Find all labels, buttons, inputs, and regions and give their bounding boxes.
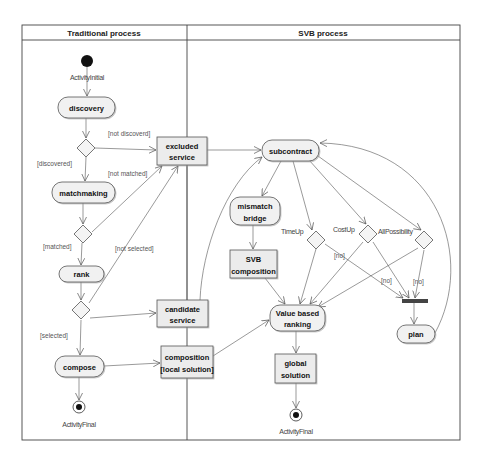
guard-selected: [selected] — [40, 332, 68, 340]
object-composition-line2: [local solution] — [160, 365, 214, 374]
decision-timeup[interactable] — [307, 231, 325, 249]
object-composition-line1: composition — [165, 353, 210, 362]
decision-allpossibility[interactable] — [415, 231, 433, 249]
action-value-based-ranking-line1: Value based — [276, 309, 320, 318]
decision-allpossibility-label: AllPossibility — [378, 228, 414, 236]
activity-diagram: Traditional process SVB process — [0, 0, 484, 463]
initial-node[interactable] — [81, 55, 93, 67]
object-candidate-service-line1: candidate — [165, 305, 200, 314]
object-global-solution-line1: global — [284, 359, 306, 368]
lane-title-svb: SVB process — [298, 29, 348, 38]
final-node-svb[interactable] — [290, 409, 302, 421]
action-subcontract-label: subcontract — [269, 147, 312, 156]
guard-discovered: [discovered] — [37, 160, 72, 168]
join-bar[interactable] — [402, 299, 428, 303]
initial-node-label: ActivityInitial — [70, 74, 105, 82]
decision-discovered[interactable] — [77, 139, 95, 157]
decision-matched[interactable] — [74, 225, 92, 243]
decision-costup[interactable] — [359, 225, 377, 243]
object-svb-composition-line1: SVB — [246, 255, 262, 264]
action-plan-label: plan — [408, 330, 424, 339]
guard-allpossibility-no: [no] — [413, 278, 424, 286]
action-mismatch-bridge-line2: bridge — [244, 214, 267, 223]
action-value-based-ranking-line2: ranking — [284, 320, 312, 329]
decision-selected[interactable] — [72, 301, 90, 319]
object-global-solution-line2: solution — [281, 371, 311, 380]
guard-not-selected: [not selected] — [115, 245, 154, 253]
final-node-svb-label: ActivityFinal — [279, 428, 313, 436]
control-flows — [79, 67, 451, 408]
guard-costup-no: [no] — [381, 277, 392, 285]
action-discovery-label: discovery — [69, 104, 105, 113]
action-mismatch-bridge-line1: mismatch — [237, 202, 272, 211]
final-node-traditional-label: ActivityFinal — [62, 421, 96, 429]
lane-title-traditional: Traditional process — [67, 29, 141, 38]
object-excluded-service-line2: service — [169, 153, 195, 162]
decision-timeup-label: TimeUp — [281, 228, 304, 236]
object-svb-composition-line2: composition — [231, 267, 276, 276]
final-node-traditional[interactable] — [73, 401, 85, 413]
object-excluded-service-line1: excluded — [166, 142, 199, 151]
guard-not-matched: [not matched] — [108, 170, 148, 178]
action-matchmaking-label: matchmaking — [59, 189, 108, 198]
guard-timeup-no: [no] — [334, 252, 345, 260]
decision-costup-label: CostUp — [333, 226, 355, 234]
action-rank-label: rank — [74, 270, 91, 279]
object-candidate-service-line2: service — [170, 316, 196, 325]
guard-not-discovered: [not discoverd] — [108, 130, 150, 138]
action-compose-label: compose — [63, 363, 96, 372]
guard-matched: [matched] — [43, 243, 72, 251]
